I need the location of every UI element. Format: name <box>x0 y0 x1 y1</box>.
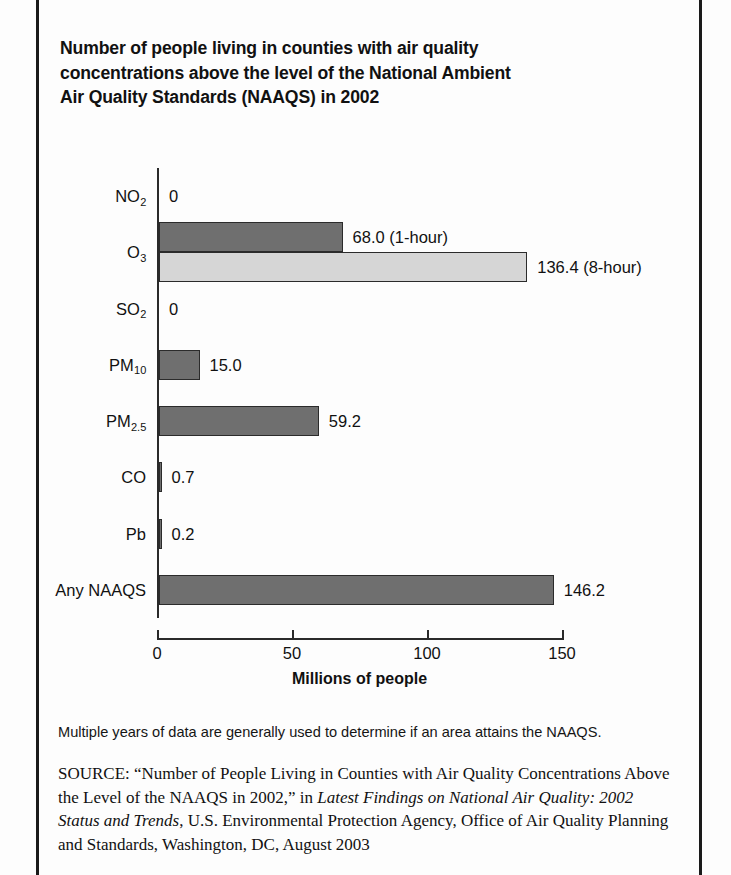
bar-value-label: 0 <box>169 187 178 206</box>
bar-value-label: 0 <box>169 299 178 318</box>
x-axis-title: Millions of people <box>157 670 562 688</box>
category-label-no2: NO2 <box>115 187 146 206</box>
category-label-so2: SO2 <box>116 299 146 318</box>
bar-o3 <box>159 252 527 282</box>
x-tick <box>157 630 159 640</box>
bar-row: NO20 <box>157 181 587 211</box>
bar-row: Pb0.2 <box>157 519 587 549</box>
page-rule-left <box>36 0 39 875</box>
x-tick <box>562 630 564 640</box>
bar-any-naaqs <box>159 575 554 605</box>
category-label-o3: O3 <box>127 243 146 262</box>
chart-title-line-1: Number of people living in counties with… <box>60 38 478 58</box>
x-tick <box>292 630 294 640</box>
chart-footnote: Multiple years of data are generally use… <box>58 722 682 742</box>
chart-title-line-2: concentrations above the level of the Na… <box>60 63 511 83</box>
chart-title: Number of people living in counties with… <box>60 36 580 110</box>
bar-o3 <box>159 222 343 252</box>
x-axis-line <box>157 638 562 640</box>
category-label-any-naaqs: Any NAAQS <box>55 580 146 599</box>
bar-pb <box>159 519 162 549</box>
bar-co <box>159 462 162 492</box>
x-axis: 050100150 Millions of people <box>157 618 587 680</box>
bar-pm10 <box>159 350 200 380</box>
bar-row: O368.0 (1-hour) <box>157 222 587 252</box>
bar-pm2-5 <box>159 406 319 436</box>
category-label-pm10: PM10 <box>109 355 146 374</box>
bar-value-label: 0.2 <box>172 524 195 543</box>
bar-row: Any NAAQS146.2 <box>157 575 587 605</box>
bar-value-label: 146.2 <box>564 580 605 599</box>
bar-chart: NO20O368.0 (1-hour)136.4 (8-hour)SO20PM1… <box>157 168 587 618</box>
category-label-pb: Pb <box>126 524 146 543</box>
bar-value-label: 15.0 <box>210 355 242 374</box>
x-tick-label: 150 <box>548 644 576 663</box>
bar-value-label: 0.7 <box>172 468 195 487</box>
x-tick <box>427 630 429 640</box>
figure-page: Number of people living in counties with… <box>0 0 731 875</box>
figure-content: Number of people living in counties with… <box>52 0 692 875</box>
category-label-pm2-5: PM2.5 <box>106 412 146 431</box>
chart-title-line-3: Air Quality Standards (NAAQS) in 2002 <box>60 87 379 107</box>
page-rule-right <box>699 0 702 875</box>
bar-row: PM1015.0 <box>157 350 587 380</box>
bar-row: PM2.559.2 <box>157 406 587 436</box>
bar-row: CO0.7 <box>157 462 587 492</box>
x-tick-label: 100 <box>413 644 441 663</box>
bar-rows: NO20O368.0 (1-hour)136.4 (8-hour)SO20PM1… <box>157 168 587 618</box>
x-tick-label: 0 <box>152 644 161 663</box>
chart-plot-area: NO20O368.0 (1-hour)136.4 (8-hour)SO20PM1… <box>52 168 692 668</box>
x-tick-label: 50 <box>283 644 301 663</box>
category-label-co: CO <box>121 468 146 487</box>
chart-source: SOURCE: “Number of People Living in Coun… <box>58 762 678 856</box>
bar-row: SO20 <box>157 294 587 324</box>
bar-value-label: 68.0 (1-hour) <box>353 228 448 247</box>
source-lead: SOURCE: <box>58 764 130 783</box>
bar-row: 136.4 (8-hour) <box>157 252 587 282</box>
bar-value-label: 136.4 (8-hour) <box>537 258 642 277</box>
bar-value-label: 59.2 <box>329 412 361 431</box>
